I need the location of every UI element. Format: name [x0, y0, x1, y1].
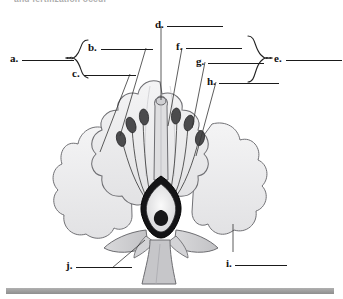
- label-g: g.: [196, 56, 204, 67]
- label-h: h.: [207, 76, 216, 87]
- answer-line-d[interactable]: [167, 26, 223, 27]
- pistil-style: [154, 96, 168, 180]
- answer-line-i[interactable]: [235, 265, 287, 266]
- answer-line-j[interactable]: [76, 267, 132, 268]
- label-c: c.: [72, 68, 80, 79]
- label-b: b.: [88, 42, 97, 53]
- label-a: a.: [10, 53, 18, 64]
- label-i: i.: [226, 258, 232, 269]
- answer-line-e[interactable]: [286, 60, 342, 61]
- answer-line-c[interactable]: [84, 75, 136, 76]
- answer-line-f[interactable]: [186, 48, 242, 49]
- answer-line-h[interactable]: [219, 83, 279, 84]
- label-e: e.: [274, 53, 282, 64]
- label-f: f.: [176, 41, 182, 52]
- label-j: j.: [66, 260, 72, 271]
- label-d: d.: [155, 19, 164, 30]
- worksheet-page: and fertilization occur: [0, 0, 343, 299]
- bottom-bar: [6, 288, 334, 294]
- answer-line-a[interactable]: [22, 60, 74, 61]
- answer-line-b[interactable]: [101, 49, 153, 50]
- answer-line-g[interactable]: [208, 63, 264, 64]
- brace-right: [248, 36, 272, 82]
- flower-diagram: [0, 0, 343, 299]
